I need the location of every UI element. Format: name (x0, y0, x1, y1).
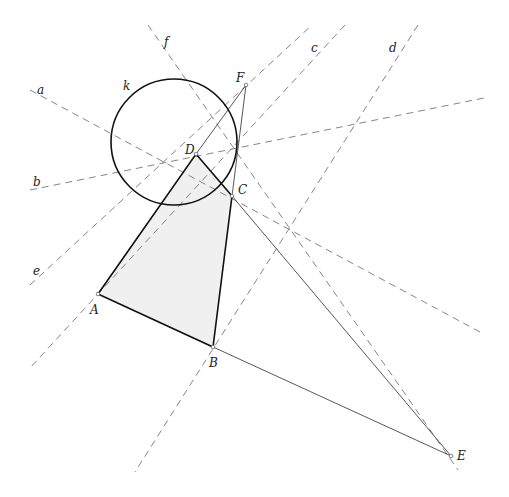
segment-ce (232, 196, 451, 456)
labels: abcdefkABCDEF (33, 35, 466, 463)
point-e (449, 454, 453, 458)
point-label-b: B (208, 356, 218, 370)
point-label-a: A (89, 303, 99, 317)
point-label-e: E (456, 449, 466, 463)
point-c (230, 194, 234, 198)
diagram-svg: abcdefkABCDEF (0, 0, 509, 497)
point-label-c: C (238, 183, 247, 197)
line-label-e: e (33, 264, 40, 278)
point-d (194, 152, 198, 156)
line-label-c: c (311, 41, 318, 55)
point-f (244, 83, 248, 87)
line-label-a: a (37, 83, 44, 97)
point-b (211, 345, 215, 349)
segment-be (213, 347, 451, 456)
line-label-f: f (163, 35, 171, 49)
point-a (96, 292, 100, 296)
geometry-diagram: abcdefkABCDEF (0, 0, 509, 497)
point-label-d: D (184, 143, 195, 157)
quadrilateral-abcd-fill (98, 154, 232, 347)
point-label-f: F (235, 71, 245, 85)
line-label-b: b (33, 175, 41, 189)
quadrilateral-fill (98, 154, 232, 347)
line-label-d: d (389, 41, 397, 55)
dashed-lines (30, 25, 484, 472)
thin-segments (196, 85, 451, 456)
dashed-line-b (30, 98, 484, 190)
circle-label-k: k (123, 79, 130, 93)
